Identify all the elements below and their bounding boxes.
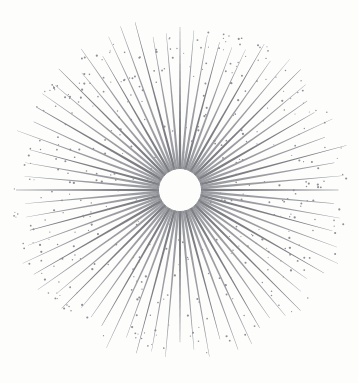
speck-dot [149, 243, 151, 245]
speck-dot [243, 315, 244, 316]
hub-ring-dot [180, 167, 182, 169]
speck-dot [150, 314, 152, 316]
hub-ring-dot [197, 203, 199, 205]
speck-dot [138, 296, 140, 298]
speck-dot [288, 237, 290, 239]
speck-dot [229, 238, 230, 239]
speck-dot [80, 199, 82, 201]
speck-dot [220, 193, 221, 194]
hub-ring-dot [165, 172, 167, 174]
speck-dot [245, 262, 247, 264]
speck-dot [298, 160, 300, 162]
speck-dot [122, 153, 123, 154]
speck-dot [324, 147, 326, 149]
hub-ring-dot [178, 212, 180, 214]
speck-dot [309, 112, 310, 113]
speck-dot [111, 150, 112, 151]
speck-dot [317, 186, 319, 188]
speck-dot [238, 38, 240, 40]
speck-dot [56, 292, 57, 293]
speck-dot [317, 167, 319, 169]
speck-dot [297, 260, 299, 262]
speck-dot [133, 276, 134, 277]
speck-dot [68, 306, 70, 308]
hub-ring-dot [201, 194, 203, 196]
speck-dot [40, 260, 42, 262]
hub-ring-dot [201, 184, 203, 186]
speck-dot [223, 33, 225, 35]
speck-dot [53, 86, 54, 87]
speck-dot [147, 178, 149, 180]
speck-dot [51, 84, 53, 86]
hub-ring-dot [194, 172, 196, 174]
speck-dot [282, 200, 284, 202]
speck-dot [86, 316, 88, 318]
speck-dot [96, 55, 98, 57]
speck-dot [138, 57, 140, 59]
speck-dot [57, 298, 58, 299]
hub-ring-dot [167, 208, 169, 210]
speck-dot [155, 51, 157, 53]
speck-dot [65, 123, 67, 125]
speck-dot [107, 264, 108, 265]
speck-dot [54, 298, 56, 300]
speck-dot [28, 263, 30, 265]
speck-dot [225, 41, 226, 42]
speck-dot [236, 66, 237, 67]
speck-dot [134, 75, 136, 77]
speck-dot [69, 286, 71, 288]
speck-dot [256, 243, 257, 244]
speck-dot [240, 236, 241, 237]
speck-dot [334, 232, 336, 234]
speck-dot [229, 236, 230, 237]
speck-dot [300, 203, 302, 205]
speck-dot [265, 58, 266, 59]
speck-dot [257, 44, 259, 46]
speck-dot [300, 205, 301, 206]
speck-dot [81, 89, 83, 91]
speck-dot [278, 304, 280, 306]
speck-dot [14, 212, 15, 213]
speck-dot [247, 245, 249, 247]
speck-dot [101, 181, 103, 183]
speck-dot [44, 219, 46, 221]
speck-dot [297, 92, 298, 93]
speck-dot [69, 149, 71, 151]
hub-ring-dot [163, 174, 165, 176]
speck-dot [345, 177, 347, 179]
speck-dot [113, 44, 114, 45]
hub-ring-dot [169, 209, 171, 211]
hub-ring-dot [158, 182, 160, 184]
speck-dot [226, 294, 228, 296]
speck-dot [189, 66, 190, 67]
speck-dot [119, 134, 120, 135]
speck-dot [77, 292, 78, 293]
speck-dot [118, 117, 120, 119]
speck-dot [288, 231, 289, 232]
speck-dot [192, 332, 194, 334]
speck-dot [59, 295, 60, 296]
hub-ring-dot [169, 169, 171, 171]
speck-dot [130, 94, 132, 96]
speck-dot [221, 198, 222, 199]
speck-dot [30, 148, 32, 150]
speck-dot [241, 199, 243, 201]
speck-dot [273, 214, 275, 216]
speck-dot [33, 228, 35, 230]
speck-dot [221, 144, 223, 146]
hub-ring-dot [173, 167, 175, 169]
speck-dot [228, 35, 229, 36]
speck-dot [258, 60, 259, 61]
speck-dot [287, 198, 289, 200]
hub-ring-dot [190, 209, 192, 211]
speck-dot [231, 277, 232, 278]
speck-dot [187, 259, 188, 260]
speck-dot [233, 115, 234, 116]
speck-dot [252, 235, 254, 237]
speck-dot [306, 186, 308, 188]
speck-dot [91, 224, 93, 226]
speck-dot [163, 126, 165, 128]
hub-ring-dot [194, 206, 196, 208]
speck-dot [28, 154, 30, 156]
speck-dot [303, 269, 305, 271]
